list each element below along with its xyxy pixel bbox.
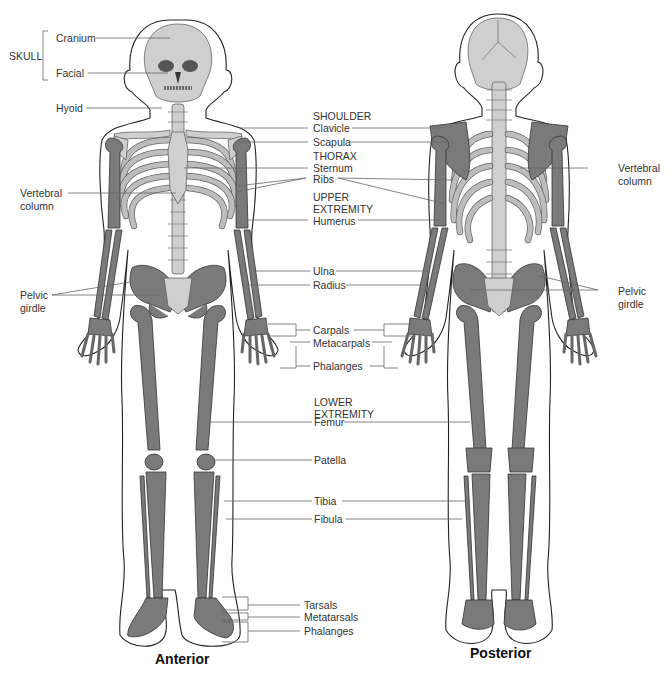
caption-anterior: Anterior [155, 651, 209, 667]
label-vertebral-column-right-1: Vertebral [618, 162, 660, 174]
label-phalanges-foot: Phalanges [304, 625, 354, 637]
label-vertebral-column-left-2: column [20, 200, 54, 212]
label-hyoid: Hyoid [56, 102, 83, 114]
cranium [144, 24, 211, 102]
label-ulna: Ulna [313, 265, 335, 277]
posterior-figure [402, 14, 596, 644]
label-metacarpals: Metacarpals [313, 337, 370, 349]
label-metatarsals: Metatarsals [304, 611, 358, 623]
label-carpals: Carpals [313, 324, 349, 336]
caption-posterior: Posterior [470, 645, 531, 661]
anterior-figure [78, 20, 278, 646]
label-patella: Patella [314, 454, 346, 466]
label-vertebral-column-right-2: column [618, 175, 652, 187]
label-upper-extremity-2: EXTREMITY [313, 203, 373, 215]
label-phalanges-hand: Phalanges [313, 360, 363, 372]
label-upper-extremity-1: UPPER [313, 191, 349, 203]
label-lower-extremity-1: LOWER [314, 396, 353, 408]
label-pelvic-girdle-left-1: Pelvic [20, 289, 48, 301]
label-thorax-group: THORAX [313, 150, 357, 162]
label-clavicle: Clavicle [313, 122, 350, 134]
label-pelvic-girdle-left-2: girdle [20, 302, 46, 314]
label-vertebral-column-left-1: Vertebral [20, 187, 62, 199]
label-femur: Femur [314, 416, 344, 428]
label-skull-group: SKULL [9, 50, 42, 62]
label-humerus: Humerus [313, 215, 356, 227]
label-fibula: Fibula [314, 513, 343, 525]
label-facial: Facial [56, 67, 84, 79]
label-scapula: Scapula [313, 136, 351, 148]
label-tibia: Tibia [314, 495, 336, 507]
label-pelvic-girdle-right-1: Pelvic [618, 285, 646, 297]
label-radius: Radius [313, 279, 346, 291]
patella [145, 454, 163, 470]
label-tarsals: Tarsals [304, 599, 337, 611]
label-pelvic-girdle-right-2: girdle [618, 298, 644, 310]
label-ribs: Ribs [313, 173, 334, 185]
label-cranium: Cranium [56, 32, 96, 44]
label-shoulder-group: SHOULDER [313, 110, 371, 122]
